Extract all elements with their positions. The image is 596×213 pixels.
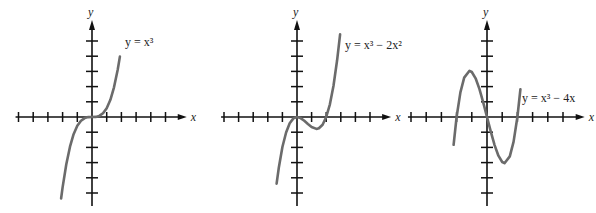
y-axis-label: y	[292, 5, 299, 19]
x-axis-arrow-icon	[178, 114, 187, 120]
equation-label: y = x³ − 2x²	[345, 38, 402, 52]
graph-y-equals-x-cubed: xyy = x³	[16, 5, 197, 206]
y-axis-label: y	[482, 5, 489, 19]
y-axis-arrow-icon	[89, 20, 95, 30]
x-axis-label: x	[190, 110, 197, 124]
y-axis-arrow-icon	[484, 20, 490, 30]
x-axis-arrow-icon	[382, 114, 391, 120]
x-axis-arrow-icon	[576, 114, 585, 120]
y-axis-arrow-icon	[294, 20, 300, 30]
equation-label: y = x³	[125, 35, 154, 49]
cubic-curve	[277, 34, 341, 183]
x-axis-label: x	[588, 110, 595, 124]
equation-label: y = x³ − 4x	[522, 91, 575, 105]
y-axis-label: y	[87, 5, 94, 19]
graph-y-equals-x-cubed-minus-2x-squared: xyy = x³ − 2x²	[221, 5, 402, 206]
x-axis-label: x	[394, 110, 401, 124]
cubic-graphs-figure: xyy = x³ xyy = x³ − 2x² xyy = x³ − 4x	[0, 0, 596, 213]
graph-y-equals-x-cubed-minus-4x: xyy = x³ − 4x	[408, 5, 595, 206]
